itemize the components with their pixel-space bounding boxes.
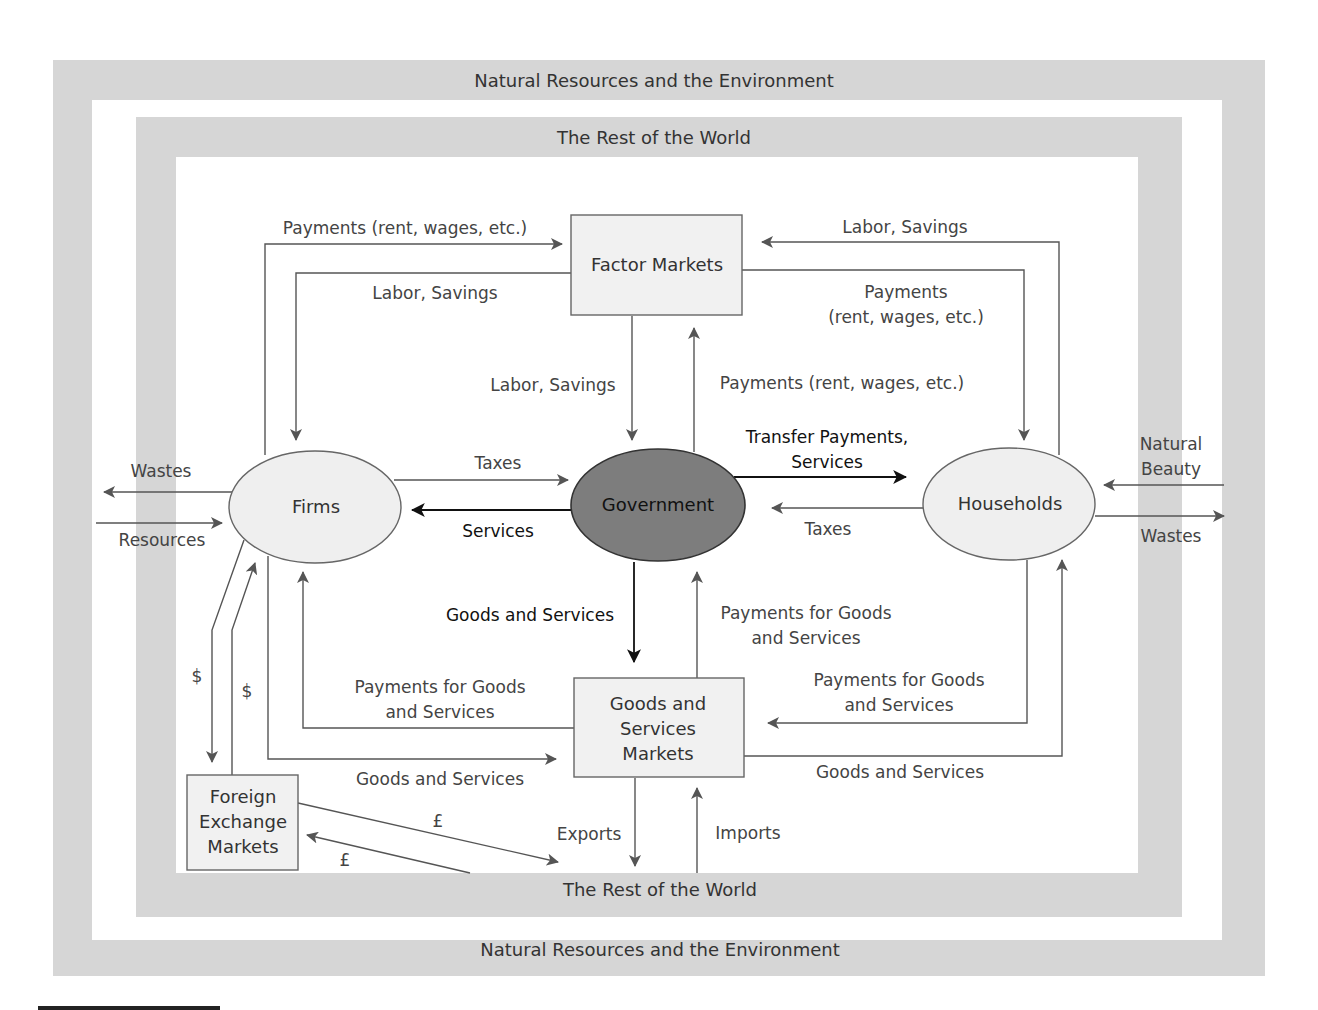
svg-text:(rent, wages, etc.): (rent, wages, etc.) (828, 307, 984, 327)
svg-text:Labor, Savings: Labor, Savings (490, 375, 615, 395)
svg-text:$: $ (192, 666, 203, 686)
node-households: Households (923, 448, 1095, 560)
svg-text:Payments for Goods: Payments for Goods (720, 603, 891, 623)
node-foreign-exchange-markets: Foreign Exchange Markets (187, 775, 298, 870)
svg-text:Labor, Savings: Labor, Savings (372, 283, 497, 303)
svg-text:Goods and Services: Goods and Services (356, 769, 524, 789)
svg-text:Payments for Goods: Payments for Goods (813, 670, 984, 690)
svg-text:Natural: Natural (1140, 434, 1203, 454)
svg-text:Goods and Services: Goods and Services (816, 762, 984, 782)
svg-text:Goods and Services: Goods and Services (446, 605, 614, 625)
node-government: Government (571, 449, 745, 561)
svg-text:and Services: and Services (751, 628, 860, 648)
svg-text:Wastes: Wastes (131, 461, 192, 481)
svg-text:and Services: and Services (385, 702, 494, 722)
svg-text:Firms: Firms (292, 496, 340, 517)
svg-text:Factor Markets: Factor Markets (591, 254, 723, 275)
svg-text:Services: Services (462, 521, 534, 541)
svg-text:Households: Households (958, 493, 1063, 514)
svg-text:Markets: Markets (622, 743, 693, 764)
band-label-natural-top: Natural Resources and the Environment (474, 70, 834, 91)
node-factor-markets: Factor Markets (571, 215, 742, 315)
svg-text:Exports: Exports (557, 824, 622, 844)
node-goods-services-markets: Goods and Services Markets (574, 678, 744, 777)
svg-text:Exchange: Exchange (199, 811, 287, 832)
svg-text:Payments (rent, wages, etc.): Payments (rent, wages, etc.) (283, 218, 527, 238)
node-firms: Firms (229, 451, 401, 563)
svg-text:and Services: and Services (844, 695, 953, 715)
svg-text:Beauty: Beauty (1141, 459, 1201, 479)
svg-text:Services: Services (791, 452, 863, 472)
svg-text:Services: Services (620, 718, 696, 739)
svg-text:£: £ (433, 811, 444, 831)
band-label-world-top: The Rest of the World (556, 127, 751, 148)
svg-text:Taxes: Taxes (804, 519, 852, 539)
svg-text:Foreign: Foreign (210, 786, 277, 807)
svg-text:Imports: Imports (715, 823, 780, 843)
page-footer-rule (38, 1006, 220, 1010)
svg-text:Wastes: Wastes (1141, 526, 1202, 546)
svg-text:Transfer Payments,: Transfer Payments, (745, 427, 908, 447)
svg-text:Resources: Resources (119, 530, 206, 550)
band-label-natural-bottom: Natural Resources and the Environment (480, 939, 840, 960)
svg-text:Government: Government (602, 494, 714, 515)
svg-text:Payments for Goods: Payments for Goods (354, 677, 525, 697)
svg-text:$: $ (242, 681, 253, 701)
svg-text:Taxes: Taxes (474, 453, 522, 473)
svg-text:Goods and: Goods and (610, 693, 706, 714)
svg-text:£: £ (340, 850, 351, 870)
svg-text:Payments (rent, wages, etc.): Payments (rent, wages, etc.) (720, 373, 964, 393)
circular-flow-diagram: Natural Resources and the Environment Th… (0, 0, 1318, 1010)
band-label-world-bottom: The Rest of the World (562, 879, 757, 900)
svg-text:Labor, Savings: Labor, Savings (842, 217, 967, 237)
svg-text:Markets: Markets (207, 836, 278, 857)
svg-text:Payments: Payments (864, 282, 947, 302)
